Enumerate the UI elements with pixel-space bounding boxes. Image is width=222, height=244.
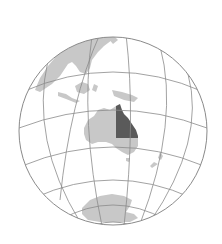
locator-map: Queensland bbox=[0, 0, 222, 244]
globe bbox=[0, 0, 222, 244]
